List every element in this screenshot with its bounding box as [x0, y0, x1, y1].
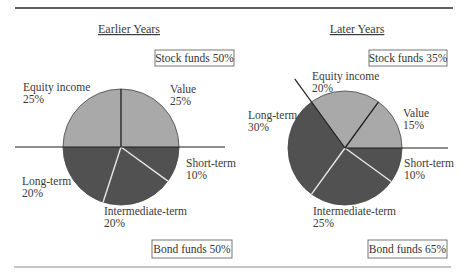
slice-pct-value: 15%	[403, 119, 425, 131]
chart-title-later: Later Years	[330, 22, 385, 36]
pie-earlier-years: Earlier Years Stock funds 50% Bond funds…	[15, 22, 236, 258]
stock-total-box-earlier: Stock funds 50%	[155, 50, 234, 66]
chart-title-earlier: Earlier Years	[98, 22, 160, 36]
bond-total-box-later: Bond funds 65%	[368, 240, 447, 258]
slice-pct-equity-income: 25%	[23, 93, 45, 105]
slice-pct-value: 25%	[170, 95, 192, 107]
slice-pct-short-term: 10%	[404, 169, 426, 181]
slice-pct-long-term: 30%	[248, 121, 270, 133]
slice-label-short-term: Short-term	[186, 157, 236, 169]
pie-later-years: Later Years Stock funds 35% Bond funds 6…	[248, 22, 454, 258]
slice-pct-long-term: 20%	[22, 187, 44, 199]
stock-total-label: Stock funds 50%	[155, 52, 234, 64]
stock-total-box-later: Stock funds 35%	[369, 50, 448, 66]
pie-slice-equity-income	[63, 89, 121, 147]
slice-label-value: Value	[170, 83, 196, 95]
bond-total-box-earlier: Bond funds 50%	[152, 240, 232, 258]
slice-pct-intermediate-term: 20%	[104, 217, 126, 229]
slice-label-intermediate-term: Intermediate-term	[104, 205, 187, 217]
bond-total-label: Bond funds 65%	[369, 243, 447, 255]
slice-pct-intermediate-term: 25%	[313, 217, 335, 229]
slice-label-value: Value	[403, 107, 429, 119]
pie-chart-figure: Earlier Years Stock funds 50% Bond funds…	[0, 0, 467, 276]
bond-total-label: Bond funds 50%	[153, 243, 231, 255]
stock-total-label: Stock funds 35%	[369, 52, 448, 64]
slice-pct-equity-income: 20%	[312, 82, 334, 94]
slice-pct-short-term: 10%	[186, 169, 208, 181]
slice-label-intermediate-term: Intermediate-term	[313, 205, 396, 217]
slice-label-short-term: Short-term	[404, 157, 454, 169]
